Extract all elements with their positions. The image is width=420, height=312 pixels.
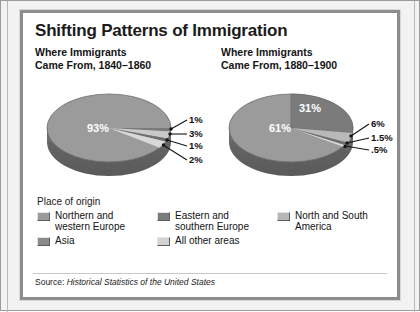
legend-item-northern-western-europe: Northern and western Europe [37, 210, 125, 232]
source-title: Historical Statistics of the United Stat… [67, 277, 215, 287]
chart-2-subtitle: Where Immigrants Came From, 1880–1900 [221, 46, 399, 72]
pie-chart-2: 61% 31% 6% 1.5% .5% [221, 76, 399, 188]
legend-swatch-icon-eastern-southern-europe [157, 212, 170, 221]
legend-item-all-other-areas: All other areas [157, 235, 239, 246]
legend-label-north-south-america: North and South America [295, 210, 368, 232]
legend-label-asia: Asia [55, 235, 74, 246]
source-note: Source: Historical Statistics of the Uni… [35, 277, 215, 287]
legend-items: Northern and western Europe Asia Eastern… [35, 210, 385, 256]
pie-1-svg: 93% [35, 76, 213, 188]
legend-item-north-south-america: North and South America [277, 210, 368, 232]
figure-title: Shifting Patterns of Immigration [35, 22, 385, 40]
legend-swatch-icon-northern-western-europe [37, 212, 50, 221]
legend-item-asia: Asia [37, 235, 74, 246]
scan-edge-left [7, 1, 8, 312]
legend-swatch-icon-north-south-america [277, 212, 290, 221]
pie-chart-1: 93% 1% 3% 1% 2% [35, 76, 213, 188]
pie-2-inside-label-61: 61% [269, 122, 291, 134]
legend-swatch-icon-asia [37, 237, 50, 246]
chart-1-subtitle-line1: Where Immigrants [35, 46, 127, 58]
figure-frame: Shifting Patterns of Immigration Where I… [20, 10, 400, 300]
chart-1880-1900: Where Immigrants Came From, 1880–1900 [221, 46, 399, 188]
chart-2-subtitle-line2: Came From, 1880–1900 [221, 59, 337, 71]
chart-1840-1860: Where Immigrants Came From, 1840–1860 [35, 46, 213, 188]
chart-1-subtitle-line2: Came From, 1840–1860 [35, 59, 151, 71]
pie-2-svg: 61% 31% [221, 76, 399, 188]
scan-edge-right [414, 1, 415, 312]
chart-2-subtitle-line1: Where Immigrants [221, 46, 313, 58]
legend-label-all-other-areas: All other areas [175, 235, 239, 246]
chart-1-subtitle: Where Immigrants Came From, 1840–1860 [35, 46, 213, 72]
source-divider [33, 273, 387, 274]
legend-label-eastern-southern-europe: Eastern and southern Europe [175, 210, 249, 232]
pie-2-inside-label-31: 31% [299, 102, 321, 114]
legend-heading: Place of origin [37, 196, 385, 207]
source-lead: Source: [35, 277, 67, 287]
pie-1-inside-label: 93% [87, 122, 109, 134]
charts-row: Where Immigrants Came From, 1840–1860 [35, 46, 385, 194]
legend-label-northern-western-europe: Northern and western Europe [55, 210, 125, 232]
legend: Place of origin Northern and western Eur… [35, 196, 385, 256]
legend-swatch-icon-all-other-areas [157, 237, 170, 246]
legend-item-eastern-southern-europe: Eastern and southern Europe [157, 210, 249, 232]
